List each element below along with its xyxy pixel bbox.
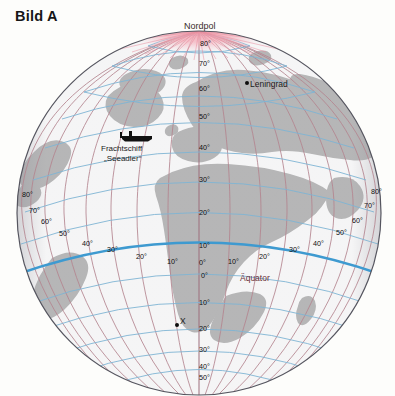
label-ship-line2: „Seeadler“ (104, 154, 141, 163)
graticule-label-lon-e50: 50° (336, 228, 347, 237)
graticule-label-lon-w80: 80° (22, 190, 33, 199)
graticule-label-lat-s50: 50° (199, 373, 210, 382)
graticule-label-lon-w20: 20° (136, 252, 147, 261)
label-leningrad: Leningrad (250, 79, 288, 89)
globe-illustration (0, 0, 395, 396)
graticule-label-lon-e30: 30° (289, 245, 300, 254)
marker-point-x-dot (175, 323, 179, 327)
graticule-label-lat-n10: 10° (199, 241, 210, 250)
page-title: Bild A (15, 8, 58, 24)
graticule-label-lon-w30: 30° (107, 245, 118, 254)
graticule-label-lat-n50: 50° (199, 112, 210, 121)
graticule-label-lon-e80: 80° (371, 187, 382, 196)
graticule-label-lon-e10: 10° (228, 257, 239, 266)
graticule-label-lat-n70: 70° (199, 59, 210, 68)
graticule-label-lon-w50: 50° (59, 229, 70, 238)
graticule-label-lon-000: 0° (199, 258, 206, 267)
marker-leningrad-dot (245, 81, 249, 85)
graticule-label-lon-e40: 40° (313, 239, 324, 248)
graticule-label-lat-00: 0° (201, 271, 208, 280)
label-nordpol: Nordpol (184, 21, 216, 31)
graticule-label-lat-s40: 40° (199, 362, 210, 371)
graticule-label-lon-e20: 20° (259, 252, 270, 261)
graticule-label-lon-e70: 70° (364, 201, 375, 210)
graticule-label-lat-n20: 20° (199, 208, 210, 217)
figure-root: Bild A Nordpol Leningrad Äquator Frachts… (0, 0, 395, 396)
graticule-label-lon-e60: 60° (352, 216, 363, 225)
graticule-label-lat-s20: 20° (199, 324, 210, 333)
graticule-label-lat-n30: 30° (199, 175, 210, 184)
graticule-label-lat-n60: 60° (199, 84, 210, 93)
label-point-x: X (180, 316, 186, 326)
graticule-label-lon-w60: 60° (41, 217, 52, 226)
graticule-label-lat-s30: 30° (199, 345, 210, 354)
graticule-label-lat-s10: 10° (199, 298, 210, 307)
label-ship-line1: Frachtschiff (101, 144, 142, 153)
label-aequator: Äquator (240, 273, 270, 283)
graticule-label-lat-n40: 40° (199, 143, 210, 152)
graticule-label-lon-w10: 10° (167, 257, 178, 266)
ship-icon (120, 131, 154, 142)
land-south-america-south (26, 317, 54, 349)
graticule-label-lon-w70: 70° (29, 206, 40, 215)
graticule-label-lon-w40: 40° (82, 239, 93, 248)
graticule-label-lat-n80: 80° (200, 39, 211, 48)
